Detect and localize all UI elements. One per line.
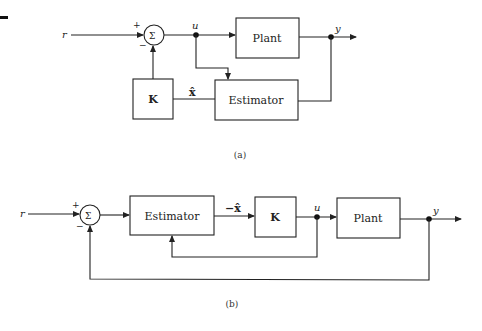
signal-neg-xhat-label: −x̂ xyxy=(225,202,241,215)
signal-y-label: y xyxy=(334,23,341,34)
signal-u-label: u xyxy=(192,20,198,31)
gain-label: K xyxy=(270,211,280,224)
signal-xhat-label: x̂ xyxy=(189,86,196,99)
signal-r-label: r xyxy=(62,29,68,40)
sum-symbol: Σ xyxy=(85,211,91,221)
sum-plus-sign: + xyxy=(72,200,80,210)
wire-y-to-estimator xyxy=(298,37,331,101)
estimator-label: Estimator xyxy=(145,210,201,223)
signal-y-label: y xyxy=(432,205,439,216)
diagram-a: r Σ + − u Plant y Estimator x̂ K ( xyxy=(62,18,356,160)
sum-minus-sign: − xyxy=(139,40,147,50)
diagram-b: r Σ + − Estimator −x̂ K u Plant y (b) xyxy=(20,196,461,309)
caption-b: (b) xyxy=(226,299,239,309)
sum-plus-sign: + xyxy=(133,20,141,30)
plant-label: Plant xyxy=(354,212,384,225)
page-edge-mark xyxy=(0,16,8,19)
plant-label: Plant xyxy=(253,32,283,45)
wire-u-to-estimator xyxy=(196,35,228,79)
caption-a: (a) xyxy=(234,150,246,160)
sum-symbol: Σ xyxy=(149,31,155,41)
signal-r-label: r xyxy=(20,208,26,219)
estimator-label: Estimator xyxy=(229,94,285,107)
gain-label: K xyxy=(148,93,158,106)
sum-minus-sign: − xyxy=(76,221,84,231)
block-diagrams: r Σ + − u Plant y Estimator x̂ K ( xyxy=(0,0,482,331)
signal-u-label: u xyxy=(314,202,320,213)
